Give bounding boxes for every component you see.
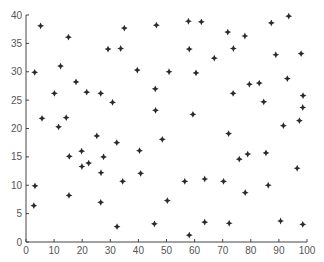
star-marker-icon xyxy=(55,123,62,130)
star-marker-icon xyxy=(256,80,263,87)
y-tick-label: 5 xyxy=(16,208,22,219)
y-tick-label: 40 xyxy=(11,10,23,21)
star-marker-icon xyxy=(105,46,112,53)
star-marker-icon xyxy=(300,92,307,99)
star-marker-icon xyxy=(230,45,237,52)
star-marker-icon xyxy=(100,153,107,160)
x-tick-label: 20 xyxy=(77,245,89,256)
star-marker-icon xyxy=(224,29,231,36)
star-marker-icon xyxy=(284,75,291,82)
star-marker-icon xyxy=(298,50,305,57)
star-marker-icon xyxy=(73,79,80,86)
star-marker-icon xyxy=(186,232,193,239)
star-marker-icon xyxy=(201,176,208,183)
star-marker-icon xyxy=(66,192,73,199)
star-marker-icon xyxy=(121,25,128,32)
star-marker-icon xyxy=(83,89,90,96)
x-tick-label: 30 xyxy=(105,245,117,256)
y-tick-label: 25 xyxy=(11,95,23,106)
y-tick-label: 0 xyxy=(16,237,22,248)
star-marker-icon xyxy=(97,199,104,206)
star-marker-icon xyxy=(151,220,158,227)
star-marker-icon xyxy=(109,99,116,106)
star-marker-icon xyxy=(272,51,279,58)
star-marker-icon xyxy=(193,69,200,76)
star-marker-icon xyxy=(85,160,92,167)
y-tick-label: 35 xyxy=(11,38,23,49)
star-marker-icon xyxy=(134,67,141,74)
star-marker-icon xyxy=(294,165,301,172)
star-marker-icon xyxy=(230,90,237,97)
star-marker-icon xyxy=(39,115,46,122)
star-marker-icon xyxy=(299,104,306,111)
y-tick-label: 15 xyxy=(11,151,23,162)
star-marker-icon xyxy=(37,22,44,29)
star-marker-icon xyxy=(65,34,72,41)
x-tick-label: 80 xyxy=(245,245,257,256)
star-marker-icon xyxy=(225,130,232,137)
star-marker-icon xyxy=(119,178,126,185)
star-marker-icon xyxy=(153,22,160,29)
x-tick-label: 60 xyxy=(189,245,201,256)
star-marker-icon xyxy=(242,189,249,196)
star-marker-icon xyxy=(97,90,104,97)
star-marker-icon xyxy=(280,122,287,129)
star-marker-icon xyxy=(137,170,144,177)
x-tick-label: 90 xyxy=(273,245,285,256)
x-tick-label: 0 xyxy=(23,245,29,256)
star-marker-icon xyxy=(164,197,171,204)
star-marker-icon xyxy=(263,150,270,157)
scatter-chart: 0102030405060708090100 0510152025303540 xyxy=(0,0,324,262)
star-marker-icon xyxy=(30,202,37,209)
star-marker-icon xyxy=(226,220,233,227)
star-marker-icon xyxy=(117,45,124,52)
star-marker-icon xyxy=(159,136,166,143)
star-marker-icon xyxy=(32,182,39,189)
star-marker-icon xyxy=(277,218,284,225)
data-markers xyxy=(30,13,306,239)
star-marker-icon xyxy=(268,20,275,27)
x-tick-label: 70 xyxy=(217,245,229,256)
star-marker-icon xyxy=(98,169,105,176)
star-marker-icon xyxy=(114,223,121,230)
star-marker-icon xyxy=(211,55,218,62)
star-marker-icon xyxy=(79,163,86,170)
star-marker-icon xyxy=(63,114,70,121)
star-marker-icon xyxy=(244,151,251,158)
star-marker-icon xyxy=(201,219,208,226)
star-marker-icon xyxy=(190,111,197,118)
x-tick-label: 50 xyxy=(161,245,173,256)
star-marker-icon xyxy=(265,182,272,189)
star-marker-icon xyxy=(236,156,243,163)
y-tick-label: 30 xyxy=(11,66,23,77)
star-marker-icon xyxy=(152,85,159,92)
star-marker-icon xyxy=(186,46,193,53)
star-marker-icon xyxy=(260,98,267,105)
star-marker-icon xyxy=(78,148,85,155)
star-marker-icon xyxy=(66,153,73,160)
star-marker-icon xyxy=(181,178,188,185)
star-marker-icon xyxy=(198,18,205,25)
star-marker-icon xyxy=(246,81,253,88)
star-marker-icon xyxy=(241,33,248,40)
x-tick-label: 40 xyxy=(133,245,145,256)
x-tick-label: 100 xyxy=(299,245,316,256)
star-marker-icon xyxy=(285,13,292,20)
star-marker-icon xyxy=(220,178,227,185)
star-marker-icon xyxy=(152,107,159,114)
y-tick-label: 10 xyxy=(11,180,23,191)
star-marker-icon xyxy=(299,221,306,228)
star-marker-icon xyxy=(185,18,192,25)
y-tick-label: 20 xyxy=(11,123,23,134)
star-marker-icon xyxy=(31,69,38,76)
star-marker-icon xyxy=(57,63,64,70)
star-marker-icon xyxy=(51,90,58,97)
star-marker-icon xyxy=(296,117,303,124)
star-marker-icon xyxy=(136,147,143,154)
star-marker-icon xyxy=(93,132,100,139)
star-marker-icon xyxy=(166,68,173,75)
star-marker-icon xyxy=(113,139,120,146)
x-tick-label: 10 xyxy=(49,245,61,256)
